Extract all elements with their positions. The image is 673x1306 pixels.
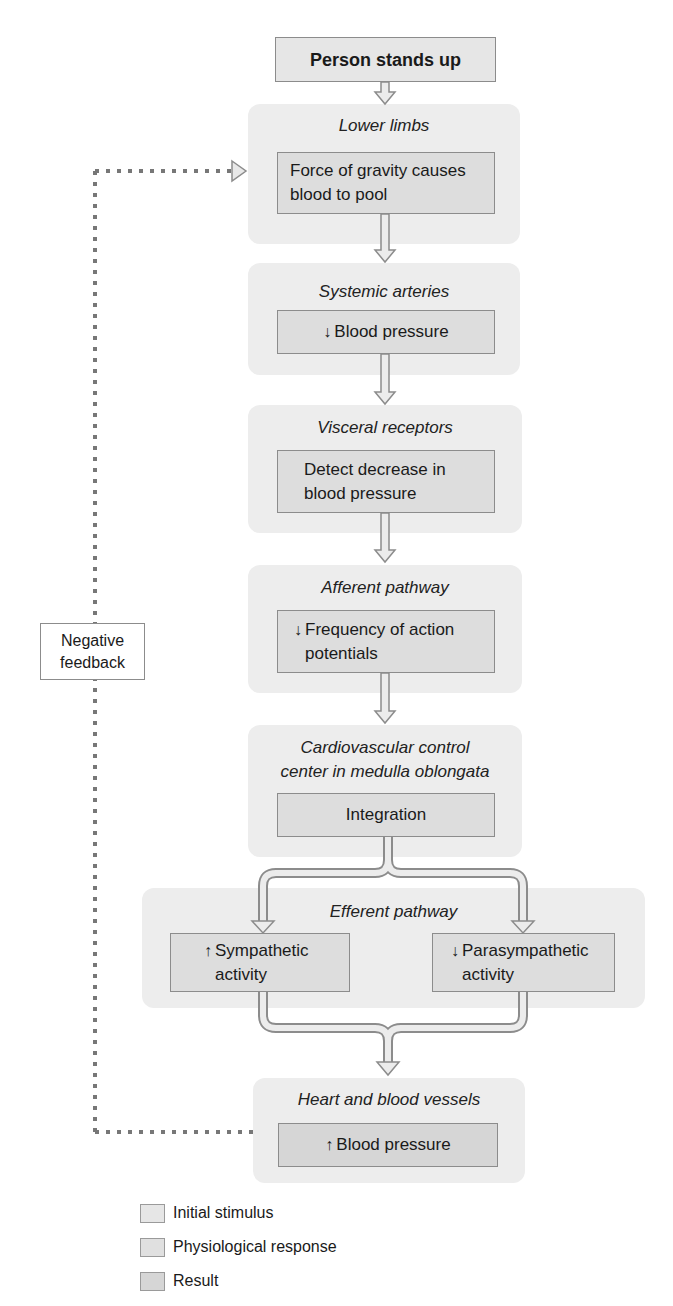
box-line: Parasympathetic [462, 939, 589, 963]
title-lower-limbs: Lower limbs [248, 114, 520, 138]
box-detect-decrease: Detect decrease in blood pressure [277, 450, 495, 513]
title-cardiovascular-center: Cardiovascular control center in medulla… [248, 736, 522, 784]
box-label: Integration [346, 803, 426, 827]
negative-feedback-label: Negative feedback [40, 623, 145, 680]
legend-swatch [140, 1204, 165, 1223]
box-blood-pressure-decrease: ↓ Blood pressure [277, 310, 495, 354]
up-arrow-icon: ↑ [204, 939, 212, 963]
start-box: Person stands up [275, 37, 496, 82]
box-line: Detect decrease in [304, 458, 446, 482]
box-line: Sympathetic [215, 939, 309, 963]
legend-swatch [140, 1238, 165, 1257]
start-label: Person stands up [310, 48, 461, 72]
down-arrow-icon: ↓ [451, 939, 459, 963]
box-sympathetic: ↑ Sympathetic activity [170, 933, 350, 992]
title-line: center in medulla oblongata [248, 760, 522, 784]
title-systemic-arteries: Systemic arteries [248, 280, 520, 304]
legend-item-initial-stimulus: Initial stimulus [140, 1201, 337, 1225]
feedback-line: Negative [60, 630, 125, 652]
title-efferent-pathway: Efferent pathway [142, 900, 645, 924]
legend-swatch [140, 1272, 165, 1291]
box-action-potentials: ↓ Frequency of action potentials [277, 610, 495, 673]
down-arrow-icon: ↓ [323, 320, 331, 344]
box-integration: Integration [277, 793, 495, 837]
legend: Initial stimulus Physiological response … [140, 1201, 337, 1293]
legend-label: Result [173, 1272, 218, 1290]
box-line: Force of gravity causes [290, 159, 466, 183]
box-parasympathetic: ↓ Parasympathetic activity [432, 933, 615, 992]
down-flow-arrow-icon [375, 82, 395, 104]
feedback-line: feedback [60, 652, 125, 674]
box-line: potentials [305, 642, 454, 666]
up-arrow-icon: ↑ [325, 1133, 333, 1157]
down-flow-arrow-icon [377, 1062, 399, 1075]
legend-item-physiological-response: Physiological response [140, 1235, 337, 1259]
box-gravity-pooling: Force of gravity causes blood to pool [277, 152, 495, 214]
feedback-arrowhead-icon [232, 161, 246, 181]
box-blood-pressure-increase: ↑ Blood pressure [278, 1123, 498, 1167]
box-line: blood to pool [290, 183, 466, 207]
box-label: Blood pressure [336, 1133, 450, 1157]
box-label: Blood pressure [334, 320, 448, 344]
title-visceral-receptors: Visceral receptors [248, 416, 522, 440]
box-line: Frequency of action [305, 618, 454, 642]
legend-item-result: Result [140, 1269, 337, 1293]
down-arrow-icon: ↓ [294, 618, 302, 642]
legend-label: Initial stimulus [173, 1204, 273, 1222]
title-afferent-pathway: Afferent pathway [248, 576, 522, 600]
box-line: activity [462, 963, 589, 987]
title-line: Cardiovascular control [248, 736, 522, 760]
box-line: blood pressure [304, 482, 446, 506]
box-line: activity [215, 963, 309, 987]
legend-label: Physiological response [173, 1238, 337, 1256]
title-heart-vessels: Heart and blood vessels [253, 1088, 525, 1112]
